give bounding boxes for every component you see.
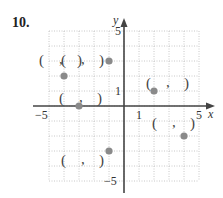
coordinate-plane: x y −51551−5 (,)(,)(,)(,)(,)(,)	[0, 0, 223, 198]
x-tick-label: 5	[196, 108, 202, 122]
blank-open-paren: (	[61, 52, 66, 69]
blank-open-paren: (	[59, 90, 64, 107]
data-point	[105, 57, 112, 64]
data-point	[75, 102, 82, 109]
blank-open-paren: (	[146, 75, 151, 92]
data-point	[150, 87, 157, 94]
blank-comma: ,	[166, 74, 170, 90]
data-point	[60, 72, 67, 79]
x-axis-label: x	[207, 107, 214, 121]
data-point	[105, 147, 112, 154]
y-tick-label: 5	[115, 24, 121, 38]
y-tick-label: 1	[115, 84, 121, 98]
blank-open-paren: (	[39, 52, 44, 69]
blank-comma: ,	[172, 114, 176, 130]
blank-close-paren: )	[97, 90, 102, 107]
blank-open-paren: (	[152, 115, 157, 132]
blank-close-paren: )	[99, 152, 104, 169]
blank-close-paren: )	[190, 115, 195, 132]
blank-comma: ,	[81, 151, 85, 167]
blank-open-paren: (	[61, 152, 66, 169]
blank-comma: ,	[81, 51, 85, 67]
x-tick-label: −5	[35, 108, 48, 122]
y-tick-label: −5	[104, 174, 117, 188]
x-tick-label: 1	[136, 108, 142, 122]
blank-close-paren: )	[184, 75, 189, 92]
blank-close-paren: )	[99, 52, 104, 69]
y-axis-arrow-icon	[121, 18, 128, 27]
data-point	[180, 132, 187, 139]
